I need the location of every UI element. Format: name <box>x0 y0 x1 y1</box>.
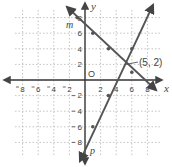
svg-text:2: 2 <box>67 85 72 94</box>
svg-text:8: 8 <box>145 85 150 94</box>
intersection-label: (5, 2) <box>139 57 162 68</box>
x-axis-label: x <box>163 82 169 94</box>
svg-text:4: 4 <box>78 45 83 54</box>
svg-text:4: 4 <box>78 107 83 116</box>
svg-text:6: 6 <box>78 123 83 132</box>
grid <box>15 10 160 155</box>
coordinate-graph: 8 6 4 2 2 4 6 8 8 6 4 2 2 4 6 8 x y O <box>0 0 172 167</box>
line-p-label: p <box>89 145 95 156</box>
svg-text:6: 6 <box>36 85 41 94</box>
svg-text:2: 2 <box>78 60 83 69</box>
svg-text:2: 2 <box>78 91 83 100</box>
svg-text:6: 6 <box>130 85 135 94</box>
svg-text:2: 2 <box>98 85 103 94</box>
origin-label: O <box>88 69 95 79</box>
svg-text:6: 6 <box>78 29 83 38</box>
y-axis-label: y <box>90 0 96 12</box>
svg-text:8: 8 <box>20 85 25 94</box>
y-negative-signs <box>72 96 75 143</box>
svg-text:4: 4 <box>52 85 57 94</box>
line-m-label: m <box>66 19 73 30</box>
svg-text:8: 8 <box>78 138 83 147</box>
